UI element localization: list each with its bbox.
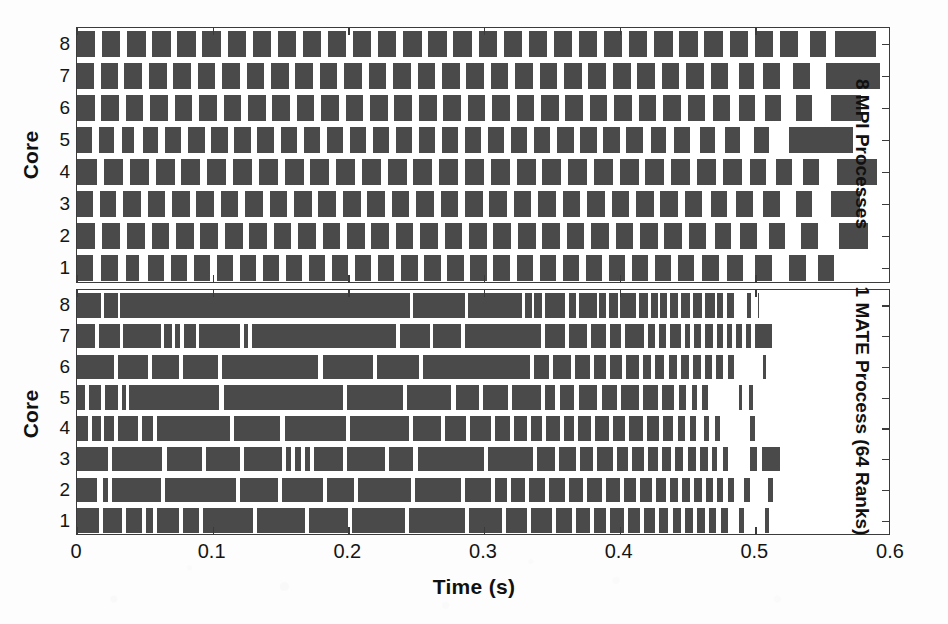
activity-segment [92, 416, 101, 441]
activity-segment [489, 191, 507, 217]
activity-segment [77, 95, 95, 121]
activity-segment [644, 508, 655, 533]
activity-segment [639, 95, 657, 121]
activity-segment [727, 293, 734, 318]
activity-segment [685, 508, 693, 533]
y-axis-tick-mark [882, 140, 889, 141]
activity-segment [579, 31, 597, 57]
activity-segment [309, 255, 325, 281]
activity-segment [295, 447, 300, 472]
activity-segment [327, 478, 354, 503]
x-axis-tick-mark [77, 527, 78, 534]
y-tick-label-core-3: 3 [48, 449, 70, 468]
activity-segment [233, 159, 252, 185]
activity-segment [563, 191, 581, 217]
y-tick-label-core-2: 2 [48, 226, 70, 245]
activity-segment [77, 159, 97, 185]
activity-segment [362, 159, 381, 185]
activity-segment [468, 95, 486, 121]
activity-segment [328, 31, 346, 57]
activity-segment [755, 31, 773, 57]
activity-segment [780, 31, 798, 57]
activity-segment [569, 478, 583, 503]
activity-segment [702, 255, 718, 281]
activity-segment [711, 63, 729, 89]
activity-segment [730, 31, 748, 57]
activity-segment [327, 127, 343, 153]
activity-segment [609, 293, 618, 318]
activity-segment [697, 508, 705, 533]
activity-segment [678, 255, 694, 281]
activity-segment [810, 31, 826, 57]
activity-segment [568, 159, 587, 185]
activity-segment [303, 31, 321, 57]
activity-segment [336, 159, 355, 185]
activity-segment [645, 159, 664, 185]
core-timeline-row [77, 324, 889, 349]
activity-segment [632, 447, 644, 472]
activity-segment [200, 223, 218, 249]
activity-segment [796, 95, 812, 121]
activity-segment [343, 191, 361, 217]
panel-mate-process [76, 289, 890, 535]
activity-segment [253, 31, 271, 57]
activity-segment [728, 355, 733, 380]
activity-segment [248, 95, 266, 121]
activity-segment [206, 447, 240, 472]
x-axis-tick-mark [755, 527, 756, 534]
y-axis-tick-mark [882, 521, 889, 522]
activity-segment [373, 127, 389, 153]
activity-segment [685, 324, 690, 349]
activity-segment [632, 255, 648, 281]
activity-segment [750, 416, 755, 441]
activity-segment [465, 127, 481, 153]
activity-segment [469, 223, 487, 249]
activity-segment [377, 355, 419, 380]
activity-segment [394, 95, 412, 121]
activity-segment [542, 223, 560, 249]
activity-segment [350, 127, 366, 153]
activity-segment [567, 223, 585, 249]
activity-segment [199, 324, 240, 349]
activity-segment [203, 508, 253, 533]
y-tick-label-core-7: 7 [48, 326, 70, 345]
activity-segment [688, 95, 706, 121]
activity-segment [690, 416, 695, 441]
y-axis-tick-mark [882, 204, 889, 205]
activity-segment [675, 447, 683, 472]
activity-segment [483, 385, 509, 410]
activity-segment [271, 63, 289, 89]
activity-segment [221, 191, 239, 217]
activity-segment [352, 508, 405, 533]
activity-segment [263, 255, 279, 281]
activity-segment [409, 508, 465, 533]
activity-segment [445, 223, 463, 249]
activity-segment [148, 255, 164, 281]
activity-segment [225, 223, 243, 249]
activity-segment [553, 355, 571, 380]
activity-segment [776, 159, 792, 185]
activity-segment [420, 223, 438, 249]
activity-segment [679, 31, 697, 57]
activity-segment [102, 223, 120, 249]
activity-segment [578, 416, 592, 441]
activity-segment [678, 416, 685, 441]
activity-segment [755, 255, 771, 281]
activity-segment [671, 159, 690, 185]
activity-segment [388, 159, 407, 185]
activity-segment [77, 293, 101, 318]
activity-segment [545, 385, 554, 410]
activity-segment [663, 416, 672, 441]
activity-segment [541, 95, 559, 121]
x-tick-label: 0 [46, 541, 106, 561]
activity-segment [793, 63, 809, 89]
activity-segment [401, 255, 417, 281]
activity-segment [77, 223, 95, 249]
activity-segment [504, 31, 522, 57]
activity-segment [673, 508, 681, 533]
activity-segment [176, 223, 194, 249]
activity-segment [442, 63, 460, 89]
activity-segment [689, 223, 707, 249]
y-axis-labels-bottom: 87654321 [46, 289, 70, 535]
activity-segment [557, 127, 573, 153]
